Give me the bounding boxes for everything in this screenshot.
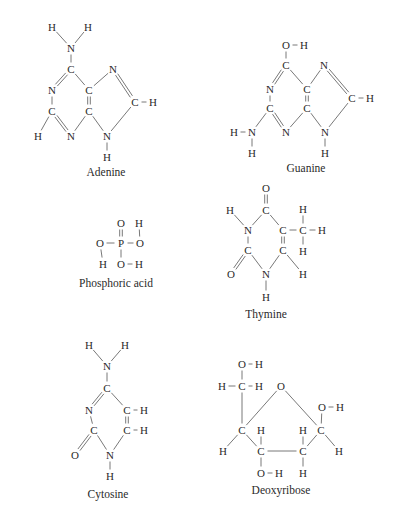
atom-h: H [230, 126, 238, 138]
atom-h: H [34, 130, 42, 142]
single-bond [75, 74, 85, 85]
double-bond [327, 71, 347, 94]
atom-h: H [103, 151, 111, 163]
single-bond [114, 435, 124, 449]
atom-o: O [277, 380, 285, 392]
double-bond [78, 434, 89, 449]
single-bond [311, 113, 321, 127]
single-bond [256, 113, 266, 127]
single-bond [111, 107, 131, 131]
atom-o: O [282, 39, 290, 51]
atom-h: H [275, 467, 283, 479]
double-bond [329, 69, 349, 92]
atom-c: C [303, 102, 310, 114]
double-bond [55, 117, 66, 132]
molecule-label-adenine: Adenine [87, 166, 126, 178]
atom-n: N [248, 126, 256, 138]
single-bond [252, 255, 262, 269]
molecule-label-thymine: Thymine [245, 308, 287, 321]
atom-n: N [282, 126, 290, 138]
atom-n: N [109, 63, 117, 75]
atom-h: H [299, 424, 307, 436]
single-bond [93, 116, 103, 130]
atom-c: C [299, 445, 306, 457]
single-bond [111, 393, 122, 405]
single-bond [270, 255, 279, 268]
atom-h: H [149, 96, 157, 108]
single-bond [307, 435, 317, 446]
single-bond [246, 435, 256, 446]
single-bond [94, 73, 108, 85]
atom-n: N [103, 130, 111, 142]
atom-h: H [140, 424, 148, 436]
molecule-adenine: HHNCNNCCCCHHNNHAdenine [34, 21, 157, 178]
atom-h: H [226, 204, 234, 216]
atom-h: H [248, 147, 256, 159]
atom-h: H [336, 401, 344, 413]
atom-h: H [257, 424, 265, 436]
single-bond [75, 116, 85, 130]
single-bond [234, 215, 243, 225]
single-bond [270, 215, 279, 225]
atom-n: N [321, 126, 329, 138]
single-bond [287, 255, 299, 269]
atom-h: H [84, 21, 92, 33]
atom-c: C [90, 424, 97, 436]
atom-n: N [85, 404, 93, 416]
atom-c: C [266, 102, 273, 114]
single-bond [227, 435, 237, 446]
atom-h: H [85, 339, 93, 351]
molecule-guanine: OHCNNCCCCHHNNNHHGuanine [230, 39, 374, 174]
molecule-phosphoric-acid: OHOPOHOHPhosphoric acid [79, 217, 153, 290]
atom-n: N [48, 84, 56, 96]
atom-c: C [348, 92, 355, 104]
atom-h: H [255, 358, 263, 370]
structures-svg: HHNCNNCCCCHHNNHAdenineOHCNNCCCCHHNNNHHGu… [0, 0, 396, 515]
single-bond [101, 249, 102, 257]
single-bond [311, 70, 320, 83]
molecule-deoxyribose: OHHCHOOHCHHCHCCHOHHDeoxyribose [218, 358, 344, 497]
atom-h: H [135, 217, 143, 229]
single-bond [98, 435, 107, 449]
atom-n: N [266, 83, 274, 95]
atom-o: O [238, 358, 246, 370]
atom-n: N [106, 449, 114, 461]
atom-n: N [320, 59, 328, 71]
molecule-label-guanine: Guanine [287, 162, 326, 174]
atom-c: C [257, 445, 264, 457]
double-bond [116, 75, 131, 97]
atom-h: H [219, 445, 227, 457]
molecule-label-phosphoric-acid: Phosphoric acid [79, 277, 153, 290]
single-bond [252, 215, 261, 225]
molecule-cytosine: HHNCNCHCCHONHCytosine [71, 339, 148, 501]
atom-h: H [262, 291, 270, 303]
atom-h: H [99, 258, 107, 270]
double-bond [57, 115, 68, 130]
atom-o: O [117, 258, 125, 270]
atom-c: C [238, 424, 245, 436]
atom-p: P [118, 237, 124, 249]
single-bond [290, 70, 302, 84]
single-bond [93, 350, 103, 361]
atom-c: C [244, 244, 251, 256]
atom-o: O [136, 237, 144, 249]
atom-c: C [48, 105, 55, 117]
atom-c: C [103, 382, 110, 394]
single-bond [290, 113, 302, 127]
atom-n: N [67, 42, 75, 54]
single-bond [325, 435, 335, 446]
atom-h: H [121, 339, 129, 351]
atom-h: H [106, 470, 114, 482]
single-bond [111, 350, 121, 361]
atom-c: C [85, 84, 92, 96]
atom-h: H [300, 39, 308, 51]
atom-c: C [262, 204, 269, 216]
atom-o: O [117, 217, 125, 229]
atom-c: C [279, 224, 286, 236]
atom-h: H [48, 21, 56, 33]
atom-c: C [299, 224, 306, 236]
single-bond [329, 103, 348, 127]
atom-c: C [303, 83, 310, 95]
atom-h: H [140, 404, 148, 416]
atom-c: C [123, 404, 130, 416]
